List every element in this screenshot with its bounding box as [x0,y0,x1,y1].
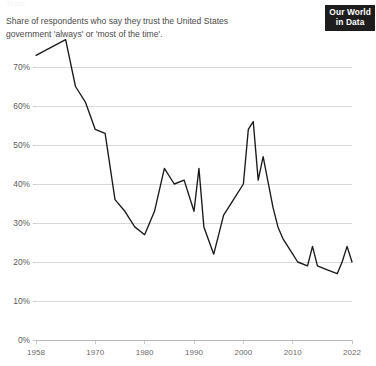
y-tick-label: 40% [13,179,30,189]
y-tick-label: 70% [13,62,30,72]
x-tick-label: 2010 [284,348,302,357]
trust-series-line [36,40,352,274]
x-tick-label: 1980 [136,348,154,357]
x-tick-label: 1958 [27,348,45,357]
line-chart-svg: 0%10%20%30%40%50%60%70% 1958197019801990… [0,0,376,366]
y-tick-label: 60% [13,101,30,111]
x-tick-label: 2022 [343,348,361,357]
grid-lines [33,67,352,340]
y-tick-label: 10% [13,296,30,306]
y-axis-tick-labels: 0%10%20%30%40%50%60%70% [13,62,30,345]
x-tick-label: 2000 [234,348,252,357]
y-tick-label: 30% [13,218,30,228]
y-tick-label: 50% [13,140,30,150]
x-axis-tick-labels: 1958197019801990200020102022 [27,348,361,357]
chart-page: Trust Share of respondents who say they … [0,0,376,366]
y-tick-label: 0% [18,335,31,345]
y-tick-label: 20% [13,257,30,267]
x-axis-ticks [36,340,352,344]
chart-plot-area: 0%10%20%30%40%50%60%70% 1958197019801990… [0,0,376,366]
x-tick-label: 1990 [185,348,203,357]
x-tick-label: 1970 [86,348,104,357]
